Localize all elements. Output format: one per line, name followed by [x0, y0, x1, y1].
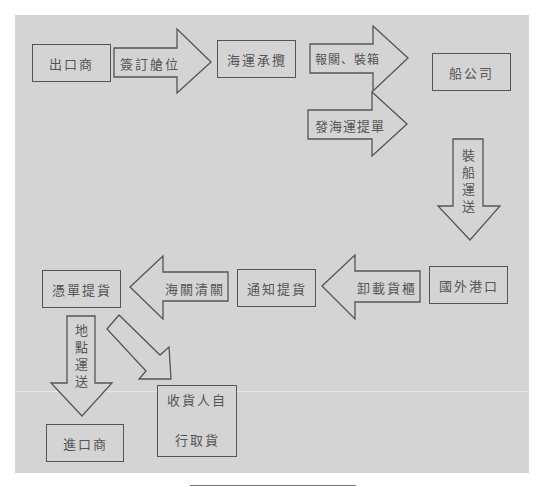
node-shipping-company: 船公司 [432, 53, 511, 91]
arrow-diagonal-icon [107, 315, 171, 379]
node-label: 國外港口 [439, 276, 499, 295]
node-label: 進口商 [63, 434, 108, 453]
node-label: 通知提貨 [247, 279, 307, 298]
node-label: 出口商 [49, 54, 94, 73]
node-foreign-port: 國外港口 [429, 266, 508, 304]
node-importer: 進口商 [46, 424, 124, 462]
arrow-label-customs-clearance: 海關清關 [165, 279, 225, 298]
arrow-label-unload-container: 卸載貨櫃 [357, 278, 417, 297]
arrow-label-issue-bl: 發海運提單 [315, 116, 385, 135]
node-consignee-self-pickup: 收貨人自 行取貨 [157, 385, 237, 457]
node-label-line1: 收貨人自 [167, 381, 227, 421]
node-label: 船公司 [449, 63, 494, 82]
arrow-label-book-space: 簽訂艙位 [120, 54, 180, 73]
node-forwarder: 海運承攬 [217, 40, 296, 78]
node-notify-pickup: 通知提貨 [237, 269, 316, 307]
node-label-line2: 行取貨 [175, 421, 220, 461]
node-pickup-with-doc: 憑單提貨 [42, 270, 121, 308]
node-label: 海運承攬 [227, 50, 287, 69]
arrow-label-local-delivery: 地點運送 [73, 322, 89, 390]
node-label: 憑單提貨 [52, 280, 112, 299]
arrow-label-customs-packing: 報關、裝箱 [315, 50, 380, 67]
bottom-rule [190, 485, 356, 486]
node-exporter: 出口商 [32, 44, 111, 82]
arrow-label-ship-transport: 裝船運送 [460, 147, 476, 215]
